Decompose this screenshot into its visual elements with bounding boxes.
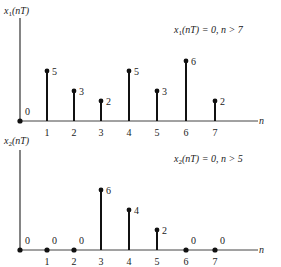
stem-marker <box>45 69 50 74</box>
value-label: 3 <box>79 86 84 97</box>
value-label: 2 <box>220 96 225 107</box>
x-tick-label: 2 <box>72 127 77 138</box>
stem-marker <box>71 247 76 252</box>
annotation: x1(nT) = 0, n > 7 <box>173 24 244 37</box>
x-tick-label: 4 <box>127 127 132 138</box>
x-tick-label: 4 <box>127 256 132 267</box>
x-tick-label: 2 <box>72 256 77 267</box>
value-label: 0 <box>79 235 84 246</box>
x-axis-label: n <box>259 244 264 255</box>
value-label: 4 <box>134 205 139 216</box>
x-axis-label: n <box>259 115 264 126</box>
value-label: 0 <box>220 235 225 246</box>
stem-marker <box>99 188 104 193</box>
stem-marker <box>213 99 218 104</box>
stem-marker <box>99 99 104 104</box>
value-label: 0 <box>25 106 30 117</box>
value-label: 6 <box>191 56 196 67</box>
x-tick-label: 5 <box>155 256 160 267</box>
x-tick-label: 6 <box>184 127 189 138</box>
x-tick-label: 1 <box>45 256 50 267</box>
value-label: 0 <box>25 235 30 246</box>
stem-marker <box>17 247 22 252</box>
stem-marker <box>44 247 49 252</box>
stem-marker <box>72 89 77 94</box>
value-label: 3 <box>162 86 167 97</box>
value-label: 2 <box>106 96 111 107</box>
x-tick-label: 7 <box>213 256 218 267</box>
value-label: 5 <box>134 66 139 77</box>
x-tick-label: 5 <box>155 127 160 138</box>
stem-marker <box>212 247 217 252</box>
x-tick-label: 1 <box>45 127 50 138</box>
stem-marker <box>183 247 188 252</box>
x-tick-label: 6 <box>184 256 189 267</box>
stem-marker <box>127 208 132 213</box>
stem-marker <box>127 69 132 74</box>
stem-plots: x1(nT)nx1(nT) = 0, n > 7123456705325362x… <box>0 0 281 267</box>
y-axis-label: x1(nT) <box>3 5 30 18</box>
value-label: 5 <box>52 66 57 77</box>
stem-marker <box>184 59 189 64</box>
annotation: x2(nT) = 0, n > 5 <box>173 153 243 166</box>
stem-marker <box>17 118 22 123</box>
value-label: 0 <box>52 235 57 246</box>
x-tick-label: 3 <box>99 127 104 138</box>
x-tick-label: 3 <box>99 256 104 267</box>
y-axis-label: x2(nT) <box>3 135 30 148</box>
stem-marker <box>155 89 160 94</box>
x-tick-label: 7 <box>213 127 218 138</box>
value-label: 6 <box>106 185 111 196</box>
value-label: 2 <box>162 225 167 236</box>
stem-marker <box>155 228 160 233</box>
value-label: 0 <box>191 235 196 246</box>
